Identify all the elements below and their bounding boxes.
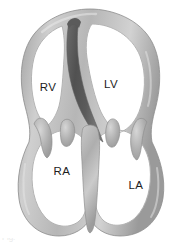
label-lv: LV <box>104 78 118 90</box>
label-la: LA <box>129 179 144 191</box>
clipped-caption-text: Fig. <box>2 238 15 242</box>
heart-cross-section-illustration: RV LV RA LA <box>0 0 181 247</box>
clipped-caption-strip: Fig. <box>0 238 181 247</box>
label-rv: RV <box>40 81 57 93</box>
heart-diagram-figure: RV LV RA LA Fig. <box>0 0 181 247</box>
label-ra: RA <box>54 165 71 177</box>
